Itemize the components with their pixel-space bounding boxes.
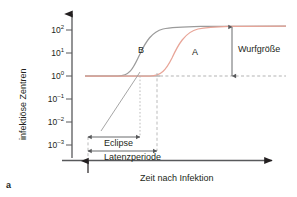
- y-axis-title: infektiöse Zentren: [18, 68, 28, 140]
- y-tick-label-1e2: 102: [38, 24, 64, 35]
- eclipse-label: Eclipse: [104, 139, 133, 148]
- latent-period-label: Latenzperiode: [104, 153, 161, 162]
- y-tick-label-1e-3: 10–3: [34, 139, 64, 150]
- y-tick-label-1e0: 100: [38, 70, 64, 81]
- curve-label-a: A: [192, 47, 198, 57]
- burst-size-label: Wurfgröße: [238, 45, 280, 54]
- eclipse-guide-line: [101, 72, 140, 131]
- y-tick-label-1e-1: 10–1: [34, 93, 64, 104]
- y-tick-label-1e1: 101: [38, 47, 64, 58]
- y-axis: [66, 14, 72, 158]
- panel-label: a: [6, 180, 11, 190]
- x-axis-title: Zeit nach Infektion: [140, 174, 214, 183]
- curve-label-b: B: [138, 45, 144, 55]
- y-tick-label-1e-2: 10–2: [34, 116, 64, 127]
- figure-panel-a: 102 101 100 10–1 10–2 10–3 infektiöse Ze…: [0, 0, 297, 197]
